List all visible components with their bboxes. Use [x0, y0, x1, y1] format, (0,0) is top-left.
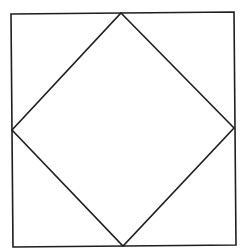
- diagram-canvas: [0, 0, 246, 252]
- background: [0, 0, 246, 252]
